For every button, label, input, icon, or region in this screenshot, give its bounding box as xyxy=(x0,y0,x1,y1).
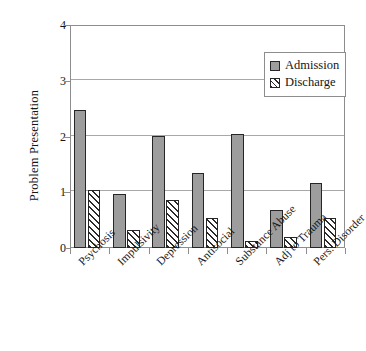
y-axis-tick-label: 3 xyxy=(26,75,66,87)
legend-label-admission: Admission xyxy=(285,59,339,72)
bar-admission xyxy=(192,173,205,248)
chart-legend: Admission Discharge xyxy=(264,52,346,97)
x-axis-tick xyxy=(70,248,71,254)
bar-admission xyxy=(74,110,87,248)
x-axis-tick xyxy=(266,248,267,254)
legend-swatch-admission-icon xyxy=(270,61,280,71)
x-axis-tick xyxy=(345,248,346,254)
x-axis-tick xyxy=(306,248,307,254)
y-axis-tick-label: 1 xyxy=(26,186,66,198)
legend-swatch-discharge-icon xyxy=(270,78,280,88)
x-axis-tick xyxy=(149,248,150,254)
x-axis-tick xyxy=(109,248,110,254)
y-axis-tick-label: 4 xyxy=(26,19,66,31)
y-axis-tick-label: 0 xyxy=(26,242,66,254)
x-axis-tick xyxy=(227,248,228,254)
legend-item-admission: Admission xyxy=(270,57,340,74)
bar-admission xyxy=(113,194,126,248)
bar-chart: Problem Presentation 01234 PsychosisImpu… xyxy=(0,0,366,351)
y-axis-tick-label: 2 xyxy=(26,131,66,143)
x-axis-tick xyxy=(188,248,189,254)
legend-label-discharge: Discharge xyxy=(285,76,335,89)
legend-item-discharge: Discharge xyxy=(270,74,340,91)
